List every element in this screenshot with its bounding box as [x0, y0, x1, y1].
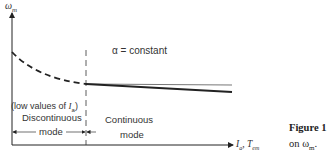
x-axis-label: Ia, Tem [236, 139, 259, 151]
low-values-close: ) [75, 101, 78, 111]
omega-symbol: ω [5, 0, 12, 11]
annotation-text: α = constant [112, 45, 167, 56]
discontinuous-label: Discontinuous [22, 113, 82, 123]
y-axis-subscript: m [12, 6, 17, 14]
caption-end: . [315, 138, 318, 149]
x-axis-torque-sub: em [252, 145, 259, 151]
discontinuous-mode-label: mode [39, 127, 63, 137]
caption-text: on ω [289, 138, 309, 149]
y-axis-label: ωm [5, 1, 17, 15]
figure-caption-title: Figure 1 [289, 122, 326, 133]
discontinuous-speed-curve [12, 52, 86, 84]
continuous-label: Continuous [105, 115, 153, 125]
low-values-text: (low values of [11, 101, 69, 111]
alpha-constant-annotation: α = constant [112, 46, 167, 56]
x-axis-torque: , T [242, 139, 252, 149]
figure-caption-text: on ωm. [289, 138, 317, 151]
continuous-mode-label: mode [120, 130, 144, 140]
